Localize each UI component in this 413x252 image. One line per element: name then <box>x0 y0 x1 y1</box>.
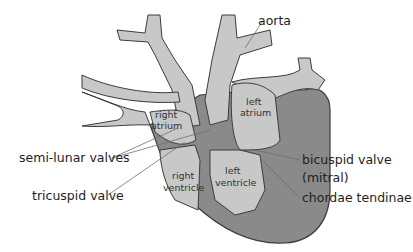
label-right-atrium-1: right <box>155 109 178 120</box>
label-tricuspid-valve: tricuspid valve <box>32 188 124 203</box>
label-chordae-tendinae: chordae tendinae <box>302 190 412 205</box>
label-semi-lunar-valves: semi-lunar valves <box>19 150 130 165</box>
label-bicuspid-mitral: (mitral) <box>302 170 349 185</box>
label-left-ventricle-1: left <box>225 165 241 176</box>
pulmonary-vein-right <box>82 75 180 102</box>
label-aorta: aorta <box>258 13 291 28</box>
label-right-ventricle-1: right <box>172 170 195 181</box>
label-left-ventricle-2: ventricle <box>215 177 257 188</box>
label-bicuspid-valve: bicuspid valve <box>302 152 392 167</box>
heart-diagram: aorta right atrium left atrium right ven… <box>0 0 413 252</box>
label-left-atrium-1: left <box>246 96 262 107</box>
label-left-atrium-2: atrium <box>240 107 271 118</box>
label-right-atrium-2: atrium <box>151 120 182 131</box>
label-right-ventricle-2: ventricle <box>163 182 205 193</box>
